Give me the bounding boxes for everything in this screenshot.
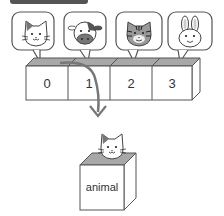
index-label-0: 0 xyxy=(43,76,50,91)
bubble-1 xyxy=(64,12,106,62)
variable-label: animal xyxy=(86,181,118,193)
index-label-3: 3 xyxy=(168,76,175,91)
index-label-2: 2 xyxy=(127,76,134,91)
bubble-2 xyxy=(116,12,162,62)
bubble-3 xyxy=(168,12,212,62)
cat-icon xyxy=(98,134,126,159)
array-to-variable-diagram: 0 1 2 3 animal xyxy=(0,0,224,216)
bubble-0 xyxy=(12,12,54,62)
tiger-icon xyxy=(127,22,151,46)
index-label-1: 1 xyxy=(85,76,92,91)
